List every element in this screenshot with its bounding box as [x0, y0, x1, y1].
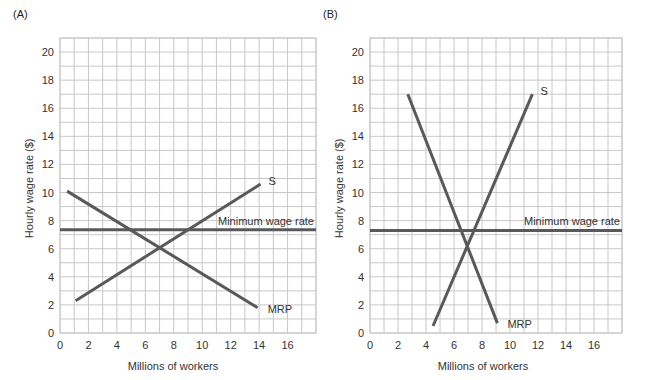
x-tick-label: 0 [367, 339, 373, 351]
x-tick-label: 4 [114, 339, 120, 351]
y-tick-label: 6 [48, 243, 54, 255]
x-tick-label: 8 [479, 339, 485, 351]
y-tick-label: 12 [352, 158, 364, 170]
y-tick-label: 18 [42, 74, 54, 86]
y-tick-label: 20 [352, 46, 364, 58]
x-tick-label: 6 [451, 339, 457, 351]
x-tick-label: 2 [85, 339, 91, 351]
x-tick-label: 12 [225, 339, 237, 351]
y-axis-label: Hourly wage rate ($) [333, 138, 345, 238]
y-tick-label: 8 [48, 215, 54, 227]
label-mrp: MRP [268, 303, 292, 315]
y-tick-label: 20 [42, 46, 54, 58]
x-tick-label: 8 [171, 339, 177, 351]
label-minimum-wage: Minimum wage rate [218, 215, 314, 227]
x-tick-label: 12 [532, 339, 544, 351]
label-minimum-wage: Minimum wage rate [524, 215, 620, 227]
y-axis-label: Hourly wage rate ($) [23, 138, 35, 238]
y-tick-label: 4 [48, 271, 54, 283]
x-tick-label: 16 [281, 339, 293, 351]
labor-market-charts: 024681012141602468101214161820(A)Million… [0, 0, 645, 380]
grid [60, 38, 316, 333]
panel-label: (B) [323, 8, 338, 20]
chart-panel-a: 024681012141602468101214161820(A)Million… [13, 8, 316, 372]
x-tick-label: 2 [395, 339, 401, 351]
y-tick-label: 4 [358, 271, 364, 283]
y-tick-label: 18 [352, 74, 364, 86]
y-tick-label: 16 [42, 102, 54, 114]
y-tick-label: 14 [42, 130, 54, 142]
label-mrp: MRP [507, 318, 531, 330]
series-mrp [67, 191, 258, 308]
x-tick-label: 6 [142, 339, 148, 351]
label-s: S [540, 85, 547, 97]
y-tick-label: 0 [358, 327, 364, 339]
x-tick-label: 10 [504, 339, 516, 351]
x-tick-label: 4 [423, 339, 429, 351]
y-tick-label: 16 [352, 102, 364, 114]
y-tick-label: 2 [358, 299, 364, 311]
x-tick-label: 10 [196, 339, 208, 351]
label-s: S [269, 175, 276, 187]
x-tick-label: 14 [560, 339, 572, 351]
grid [370, 38, 622, 333]
x-tick-label: 16 [588, 339, 600, 351]
y-tick-label: 14 [352, 130, 364, 142]
x-axis-label: Millions of workers [438, 360, 529, 372]
x-axis-label: Millions of workers [128, 360, 219, 372]
y-tick-label: 12 [42, 158, 54, 170]
x-tick-label: 0 [57, 339, 63, 351]
y-tick-label: 8 [358, 215, 364, 227]
y-tick-label: 0 [48, 327, 54, 339]
y-tick-label: 6 [358, 243, 364, 255]
y-tick-label: 10 [352, 187, 364, 199]
chart-panel-b: 024681012141602468101214161820(B)Million… [323, 8, 622, 372]
series-s [76, 184, 261, 301]
y-tick-label: 2 [48, 299, 54, 311]
panel-label: (A) [13, 8, 28, 20]
x-tick-label: 14 [253, 339, 265, 351]
y-tick-label: 10 [42, 187, 54, 199]
